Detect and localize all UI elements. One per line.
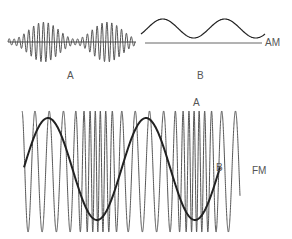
am-modulating-signal-wave <box>141 19 265 38</box>
fm-label-a: A <box>193 98 200 108</box>
am-label-a: A <box>67 71 74 81</box>
modulation-diagram <box>0 0 292 239</box>
am-side-label: AM <box>265 38 280 48</box>
am-label-b: B <box>197 71 204 81</box>
fm-modulated-carrier-wave <box>22 111 240 232</box>
fm-side-label: FM <box>252 166 266 176</box>
fm-label-b: B <box>216 163 223 173</box>
